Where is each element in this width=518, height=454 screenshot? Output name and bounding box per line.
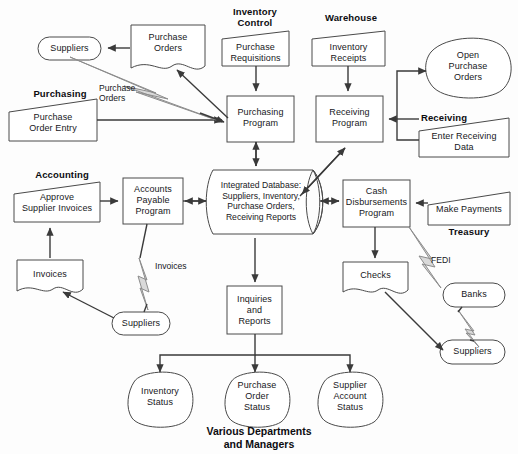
flow-inquiries-trunk (160, 334, 255, 372)
bolt-invoices (138, 258, 149, 310)
dept-label-inventory-control: Inventory Control (215, 6, 295, 28)
node-shape-inventory-status[interactable] (128, 372, 193, 427)
dept-label-warehouse: Warehouse (312, 12, 390, 23)
node-shape-purchase-orders-doc[interactable] (131, 25, 205, 69)
node-shape-purchase-requisitions[interactable] (222, 31, 289, 66)
node-shape-suppliers-top[interactable] (38, 37, 101, 60)
node-shape-accounts-payable-program[interactable] (123, 178, 183, 224)
flow-banks-stem (458, 307, 462, 312)
flow-receiving-data-to-open-po (397, 71, 426, 140)
flow-ap-bolt-stem (140, 224, 147, 258)
node-shape-receiving-program[interactable] (316, 96, 383, 142)
dept-label-treasury: Treasury (432, 226, 506, 237)
node-shape-purchase-order-status[interactable] (225, 372, 290, 427)
dept-label-receiving: Receiving (408, 112, 480, 123)
node-shape-banks[interactable] (443, 283, 505, 307)
node-shape-suppliers-right[interactable] (440, 340, 505, 364)
node-shape-inquiries-and-reports[interactable] (227, 286, 282, 334)
dept-label-purchasing: Purchasing (18, 88, 102, 99)
edge-label-fedi: FEDI (431, 255, 465, 265)
flow-purchasing-to-po-doc (177, 70, 228, 118)
node-shape-checks-doc[interactable] (343, 262, 408, 293)
edge-label-purchase-orders: Purchase Orders (99, 83, 159, 103)
node-label-integrated-database: Integrated Database: Suppliers, Inventor… (209, 180, 313, 222)
flow-checks-to-suppliers (385, 292, 443, 350)
node-shape-suppliers-left[interactable] (112, 312, 170, 335)
node-shape-make-payments[interactable] (428, 192, 510, 225)
node-shape-purchase-order-entry[interactable] (9, 99, 97, 141)
flow-inquiries-right (255, 355, 350, 372)
flow-suppliers-to-invoices (63, 292, 114, 318)
node-shape-invoices-doc[interactable] (17, 260, 83, 292)
node-shape-cash-disbursements-program[interactable] (343, 180, 410, 227)
edge-label-invoices: Invoices (155, 261, 203, 271)
footer-various-departments: Various Departments and Managers (159, 425, 359, 451)
node-shape-approve-supplier-invoices[interactable] (14, 182, 100, 222)
node-shape-inventory-receipts[interactable] (312, 31, 385, 66)
node-shape-enter-receiving-data[interactable] (419, 118, 509, 157)
node-shape-supplier-account-status[interactable] (318, 372, 383, 427)
flow-bolt-to-suppliers-left (144, 304, 147, 312)
node-shape-purchasing-program[interactable] (227, 96, 294, 142)
dept-label-accounting: Accounting (20, 169, 104, 180)
flow-banks-to-suppliers-stem (470, 340, 474, 341)
node-shape-open-purchase-orders[interactable] (426, 38, 511, 98)
diagram-canvas: Purchasing Inventory Control Warehouse R… (0, 0, 518, 454)
